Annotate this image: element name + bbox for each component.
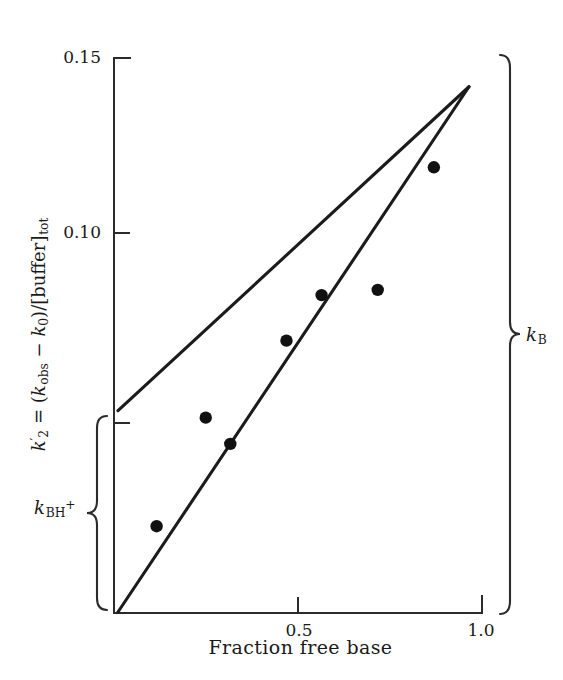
y-tick-label-0.10: 0.10 [63, 224, 101, 241]
left-bracket [86, 413, 110, 613]
left-bracket-sup-plus: + [65, 498, 75, 512]
y-axis-k-symbol: k [28, 440, 49, 451]
trend-line [118, 87, 469, 411]
right-bracket-k: k [526, 324, 537, 345]
right-bracket [497, 52, 523, 617]
data-point [372, 284, 384, 296]
data-layer [118, 57, 483, 612]
data-point [200, 411, 212, 423]
trend-lines [118, 87, 469, 612]
y-axis-minus: − [28, 337, 49, 364]
y-axis-line [113, 57, 115, 612]
figure-canvas: 0.15 0.10 0.5 1.0 Fraction free base k′2… [0, 0, 563, 680]
y-axis-k0-symbol: k [28, 326, 49, 337]
x-axis-title: Fraction free base [118, 636, 483, 658]
data-point [315, 289, 327, 301]
left-bracket-sub-BH: BH [46, 506, 66, 520]
right-bracket-sub-B: B [538, 333, 547, 347]
y-axis-prime: ′ [29, 438, 43, 441]
data-point [280, 334, 292, 346]
x-axis-title-text: Fraction free base [209, 636, 393, 658]
y-tick-label-0.15: 0.15 [63, 49, 101, 66]
right-bracket-label: kB [526, 324, 547, 347]
y-axis-kobs-symbol: k [28, 385, 49, 396]
y-axis-close-buffer: )/[buffer] [28, 236, 49, 318]
y-axis-sub-tot: tot [37, 218, 51, 235]
y-axis-title: k′2 = (kobs − k0)/[buffer]tot [28, 57, 68, 612]
y-axis-sub-obs: obs [37, 363, 51, 384]
y-axis-sub-2: 2 [37, 430, 51, 438]
plot-area: 0.15 0.10 0.5 1.0 [118, 57, 483, 612]
data-point [428, 161, 440, 173]
y-axis-sub-0: 0 [37, 318, 51, 326]
data-point [224, 438, 236, 450]
data-point [150, 520, 162, 532]
trend-line [118, 87, 469, 612]
y-axis-equals-open: = ( [28, 396, 49, 430]
left-bracket-label: kBH+ [34, 497, 76, 520]
left-bracket-k: k [34, 497, 45, 518]
